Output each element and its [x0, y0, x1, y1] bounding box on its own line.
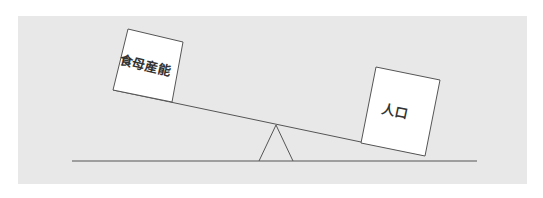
- seesaw-diagram: 食母産能 人口: [0, 0, 543, 198]
- fulcrum: [259, 125, 293, 161]
- left-box: 食母産能: [113, 29, 183, 102]
- right-box: 人口: [361, 67, 440, 156]
